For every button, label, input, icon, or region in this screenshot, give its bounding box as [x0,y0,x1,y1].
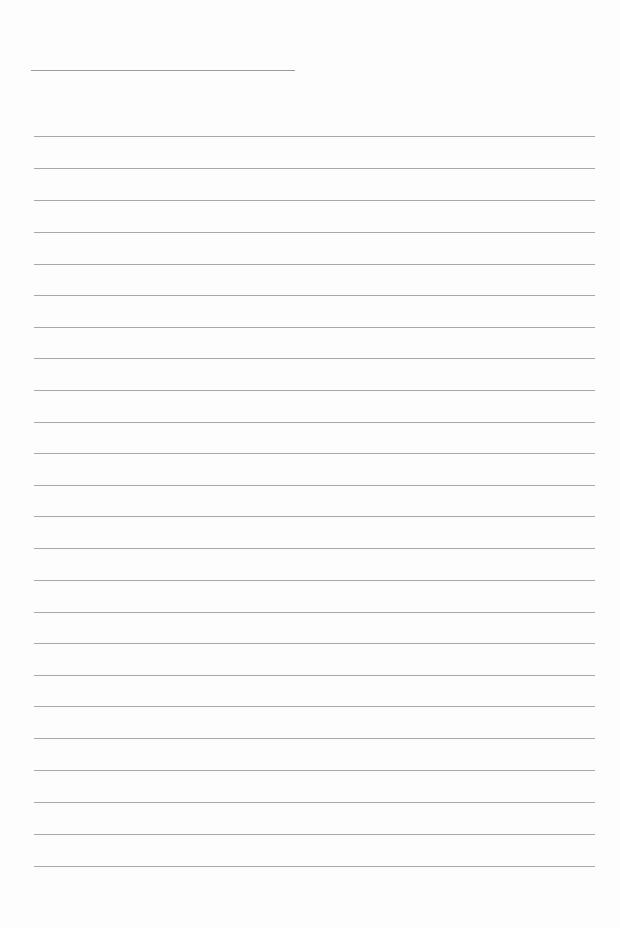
ruled-line [34,834,595,835]
ruled-line [34,358,595,359]
ruled-line [34,516,595,517]
title-write-line [31,70,295,71]
ruled-line [34,295,595,296]
ruled-line [34,390,595,391]
ruled-line [34,706,595,707]
ruled-line [34,866,595,867]
ruled-line [34,675,595,676]
notepad-page [0,0,620,928]
ruled-line [34,770,595,771]
ruled-line [34,580,595,581]
ruled-line [34,453,595,454]
ruled-line [34,264,595,265]
ruled-line [34,232,595,233]
ruled-line [34,422,595,423]
ruled-line [34,738,595,739]
ruled-line [34,485,595,486]
ruled-line [34,612,595,613]
ruled-line [34,327,595,328]
ruled-line [34,643,595,644]
ruled-line [34,168,595,169]
ruled-line [34,200,595,201]
ruled-line [34,802,595,803]
ruled-line [34,548,595,549]
ruled-line [34,136,595,137]
